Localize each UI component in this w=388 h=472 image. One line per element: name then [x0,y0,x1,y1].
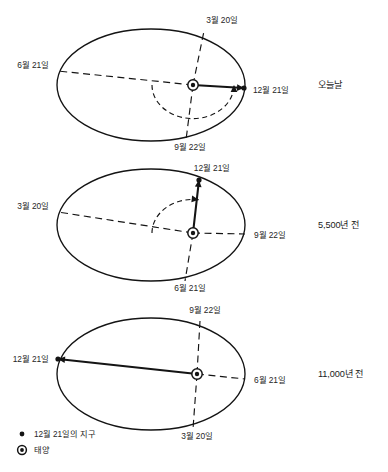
season-axis-dashed [58,212,193,233]
date-label-left: 12월 21일 [13,354,49,364]
orbit-ellipse [57,29,245,141]
legend-item: 태양 [18,445,50,455]
date-label-top: 9월 22일 [189,305,221,315]
radius-vector-dec21 [58,359,197,374]
panels-layer: 3월 20일6월 21일12월 21일9월 22일오늘날12월 21일3월 20… [13,15,363,441]
legend-sun-core-icon [20,448,24,452]
earth-marker-dec21 [55,356,60,361]
date-label-right: 12월 21일 [253,85,289,95]
season-axis-dashed [58,71,193,85]
radius-vector-dec21 [193,85,244,88]
date-label-bottom: 9월 22일 [174,142,206,152]
earth-marker-dec21 [196,177,201,182]
season-axis-dashed [193,31,204,85]
season-axis-dashed [193,374,197,429]
radius-vector-dec21 [193,180,199,233]
sun-core [195,372,199,376]
legend-item: 12월 21일의 지구 [20,429,96,439]
date-label-bottom: 3월 20일 [181,431,213,441]
date-label-bottom: 6월 21일 [174,283,206,293]
sun-core [191,83,195,87]
orbit-ellipse [57,169,245,281]
orbit-ellipse [57,318,245,430]
date-label-left: 3월 20일 [17,201,49,211]
figure-canvas: 3월 20일6월 21일12월 21일9월 22일오늘날12월 21일3월 20… [0,0,388,472]
legend-label: 태양 [34,445,50,455]
era-label-panel-today: 오늘날 [318,80,343,90]
era-label-panel-5500: 5,500년 전 [318,220,359,230]
earth-marker-dec21 [241,85,246,90]
season-axis-dashed [197,374,245,379]
season-axis-dashed [186,85,193,140]
era-label-panel-11000: 11,000년 전 [318,369,363,379]
legend-label: 12월 21일의 지구 [34,429,96,439]
season-axis-dashed [197,321,200,374]
season-axis-dashed [185,233,193,281]
panel-5500: 12월 21일3월 20일9월 22일6월 21일5,500년 전 [17,163,359,293]
date-label-left: 6월 21일 [17,60,49,70]
date-label-top: 12월 21일 [194,163,230,173]
season-axis-dashed [193,233,245,234]
panel-today: 3월 20일6월 21일12월 21일9월 22일오늘날 [17,15,343,152]
date-label-top: 3월 20일 [206,15,238,25]
legend-earth-icon [20,432,25,437]
legend-layer: 12월 21일의 지구태양 [18,429,96,455]
date-label-right: 9월 22일 [254,230,286,240]
panel-11000: 9월 22일12월 21일6월 21일3월 20일11,000년 전 [13,305,363,441]
sun-core [191,231,195,235]
orbital-precession-figure: 3월 20일6월 21일12월 21일9월 22일오늘날12월 21일3월 20… [0,0,388,472]
date-label-right: 6월 21일 [254,375,286,385]
